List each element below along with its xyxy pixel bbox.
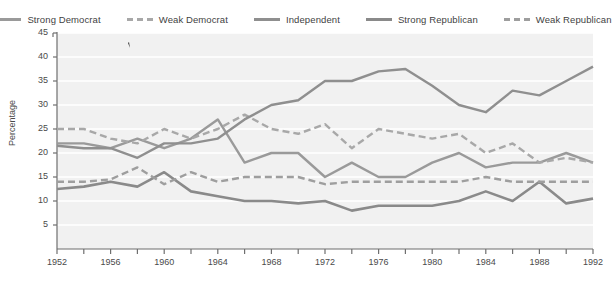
legend-label-independent: Independent: [286, 14, 340, 25]
x-tick-label: 1956: [91, 257, 131, 267]
x-tick-label: 1976: [359, 257, 399, 267]
x-tick-label: 1964: [198, 257, 238, 267]
legend-item-independent[interactable]: Independent: [254, 14, 340, 25]
y-tick-label: 40: [26, 51, 48, 61]
x-tick-label: 1972: [305, 257, 345, 267]
y-tick-label: 45: [26, 27, 48, 37]
x-tick-label: 1960: [144, 257, 184, 267]
legend-swatch-weak-democrat: [127, 18, 153, 21]
legend-item-weak-republican[interactable]: Weak Republican: [504, 14, 612, 25]
legend-label-weak-democrat: Weak Democrat: [159, 14, 228, 25]
legend-item-strong-democrat[interactable]: Strong Democrat: [0, 14, 101, 25]
y-tick-label: 15: [26, 171, 48, 181]
legend-label-strong-democrat: Strong Democrat: [27, 14, 100, 25]
y-tick-label: 25: [26, 123, 48, 133]
legend-swatch-weak-republican: [504, 18, 530, 21]
legend-swatch-strong-democrat: [0, 18, 21, 21]
x-tick-label: 1992: [573, 257, 613, 267]
legend-swatch-independent: [254, 18, 280, 21]
x-tick-label: 1968: [251, 257, 291, 267]
y-axis-title: Percentage: [7, 83, 17, 163]
y-tick-label: 10: [26, 195, 48, 205]
y-tick-label: 35: [26, 75, 48, 85]
x-tick-label: 1980: [412, 257, 452, 267]
x-tick-label: 1988: [519, 257, 559, 267]
y-tick-label: 5: [26, 219, 48, 229]
x-tick-label: 1952: [37, 257, 77, 267]
legend-item-weak-democrat[interactable]: Weak Democrat: [127, 14, 228, 25]
chart-legend: Strong Democrat Weak Democrat Independen…: [0, 11, 607, 27]
x-tick-label: 1984: [466, 257, 506, 267]
legend-label-weak-republican: Weak Republican: [536, 14, 612, 25]
plot-background: [57, 33, 593, 249]
legend-label-strong-republican: Strong Republican: [398, 14, 478, 25]
legend-item-strong-republican[interactable]: Strong Republican: [366, 14, 478, 25]
y-tick-label: 20: [26, 147, 48, 157]
y-tick-label: 30: [26, 99, 48, 109]
legend-swatch-strong-republican: [366, 18, 392, 21]
